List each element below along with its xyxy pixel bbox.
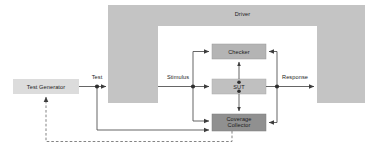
coverage-collector-box[interactable] <box>212 114 266 131</box>
diagram-canvas: Test Generator Driver Checker SUT Covera… <box>0 0 383 157</box>
edge-response-to-checker <box>269 52 277 87</box>
edge-stimulus-to-checker <box>193 52 209 87</box>
edge-stimulus-to-coverage <box>193 87 209 122</box>
junction-dot-test <box>95 84 99 88</box>
junction-dot-response <box>275 84 279 88</box>
test-generator-box[interactable] <box>13 79 79 94</box>
edge-response-to-coverage <box>269 87 277 123</box>
checker-box[interactable] <box>212 44 266 59</box>
junction-dot-sut-bottom <box>237 89 241 93</box>
edge-coverage-feedback-dashed <box>46 97 232 142</box>
junction-dot-stimulus <box>191 84 195 88</box>
diagram-svg <box>0 0 383 157</box>
junction-dot-sut-top <box>237 80 241 84</box>
